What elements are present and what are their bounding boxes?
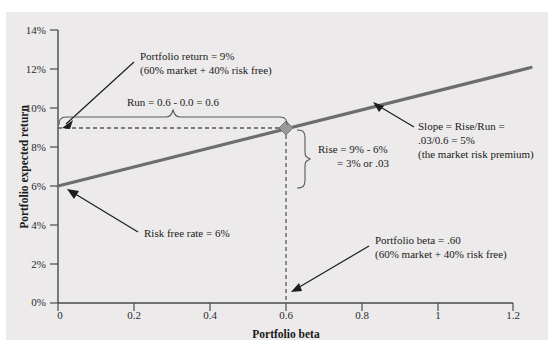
y-tick-label-8: 8% <box>31 141 46 153</box>
slope-label-line3: (the market risk premium) <box>418 148 534 161</box>
x-tick-label-02: 0.2 <box>127 309 141 321</box>
y-tick-label-0: 0% <box>31 296 46 308</box>
x-tick-label-08: 0.8 <box>355 309 369 321</box>
x-tick-label-1: 1 <box>435 309 441 321</box>
y-tick-label-6: 6% <box>31 180 46 192</box>
portfolio-beta-label-line1: Portfolio beta = .60 <box>375 234 461 246</box>
chart-plot: 14% 12% 10% 8% 6% 4% 2% 0% 0 0.2 0.4 0.6… <box>0 0 560 353</box>
risk-free-rate-annotation-arrow <box>67 189 138 232</box>
x-tick-labels: 0 0.2 0.4 0.6 0.8 1 1.2 <box>57 309 520 321</box>
portfolio-return-label-line1: Portfolio return = 9% <box>140 50 235 62</box>
x-tick-label-06: 0.6 <box>279 309 293 321</box>
rise-brace <box>297 130 310 188</box>
risk-free-rate-label: Risk free rate = 6% <box>144 227 230 239</box>
rise-label-line1: Rise = 9% - 6% <box>318 143 388 155</box>
portfolio-return-label-line2: (60% market + 40% risk free) <box>140 64 272 77</box>
slope-annotation-arrow <box>373 102 414 127</box>
y-tick-label-2: 2% <box>31 258 46 270</box>
x-axis-title: Portfolio beta <box>252 328 320 340</box>
run-brace <box>59 110 287 125</box>
x-tick-label-12: 1.2 <box>506 309 520 321</box>
y-tick-label-12: 12% <box>26 63 46 75</box>
run-label: Run = 0.6 - 0.0 = 0.6 <box>127 96 220 108</box>
slope-label-line1: Slope = Rise/Run = <box>418 120 505 132</box>
x-tick-label-0: 0 <box>57 309 63 321</box>
figure-container: 14% 12% 10% 8% 6% 4% 2% 0% 0 0.2 0.4 0.6… <box>0 0 560 353</box>
slope-label-line2: .03/0.6 = 5% <box>418 134 475 146</box>
x-tick-label-04: 0.4 <box>203 309 217 321</box>
rise-label-line2: = 3% or .03 <box>337 157 390 169</box>
y-axis-title: Portfolio expected return <box>18 105 31 229</box>
y-tick-label-4: 4% <box>31 219 46 231</box>
portfolio-return-annotation-arrow <box>62 62 134 129</box>
y-axis <box>50 30 58 303</box>
portfolio-beta-annotation-arrow <box>291 246 369 292</box>
portfolio-data-point-marker <box>279 121 293 135</box>
y-tick-label-14: 14% <box>26 24 46 36</box>
portfolio-beta-label-line2: (60% market + 40% risk free) <box>375 248 507 261</box>
